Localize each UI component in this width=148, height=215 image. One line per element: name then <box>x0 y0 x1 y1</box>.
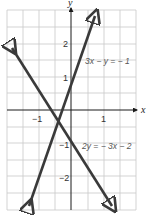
x-axis-label: x <box>140 104 146 115</box>
y-tick-neg2: −2 <box>59 173 69 183</box>
y-tick-2: 2 <box>63 39 68 49</box>
x-tick-neg1: −1 <box>32 114 42 124</box>
equation-label-2: 2y = − 3x − 2 <box>81 141 132 151</box>
y-tick-1: 1 <box>63 73 68 83</box>
x-tick-1: 1 <box>101 114 106 124</box>
equation-label-1: 3x − y = − 1 <box>85 56 130 66</box>
y-axis-label: y <box>67 0 73 8</box>
coordinate-plane: x y −1 1 2 1 −1 −2 3x − y = − 1 2y = − 3… <box>0 0 148 215</box>
y-tick-neg1: −1 <box>59 140 69 150</box>
